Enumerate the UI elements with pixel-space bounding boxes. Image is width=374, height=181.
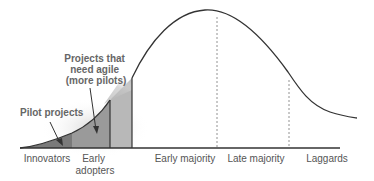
segment-label-late-majority: Late majority <box>227 153 284 164</box>
annotation-pilot-projects: Pilot projects <box>20 107 84 118</box>
segment-label-innovators: Innovators <box>24 153 71 164</box>
segment-label-early-majority: Early majority <box>155 153 216 164</box>
adoption-curve-diagram: Pilot projects Projects that need agile … <box>0 0 374 181</box>
adoption-curve-upper <box>132 10 357 118</box>
annotation-agile-projects: Projects that need agile (more pilots) <box>64 53 127 86</box>
segment-label-laggards: Laggards <box>306 153 348 164</box>
